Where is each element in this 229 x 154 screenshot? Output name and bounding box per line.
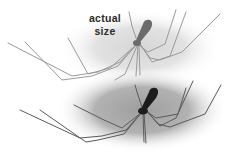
spider-illustration: actual size (0, 0, 229, 154)
actual-size-label-line1: actual (78, 12, 132, 24)
actual-size-label-line2: size (78, 25, 132, 37)
